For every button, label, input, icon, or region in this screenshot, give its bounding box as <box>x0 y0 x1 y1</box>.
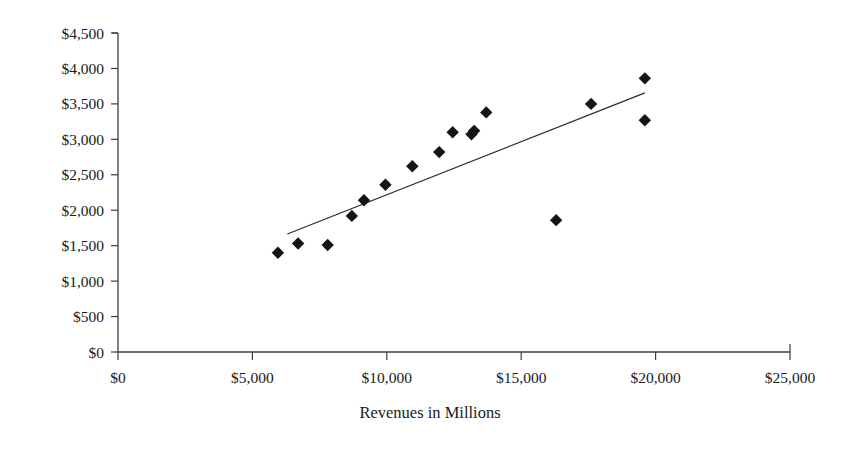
data-point <box>585 98 597 110</box>
trend-line <box>287 93 645 234</box>
data-point <box>346 210 358 222</box>
data-point <box>358 194 370 206</box>
x-axis-ticks <box>118 352 790 360</box>
x-axis-tick-labels: $0$5,000$10,000$15,000$20,000$25,000 <box>110 369 815 386</box>
x-tick-label: $15,000 <box>496 369 547 386</box>
x-tick-label: $0 <box>110 369 126 386</box>
x-tick-label: $25,000 <box>765 369 816 386</box>
data-point <box>433 146 445 158</box>
data-point <box>639 114 651 126</box>
trend-line-group <box>287 93 645 234</box>
y-tick-label: $3,000 <box>61 131 104 148</box>
data-point <box>272 247 284 259</box>
y-axis-ticks <box>111 33 118 352</box>
plot-area: $0$500$1,000$1,500$2,000$2,500$3,000$3,5… <box>0 0 855 451</box>
y-tick-label: $0 <box>89 344 105 361</box>
data-point <box>406 160 418 172</box>
data-point <box>550 214 562 226</box>
y-tick-label: $3,500 <box>61 95 104 112</box>
data-point <box>379 179 391 191</box>
y-tick-label: $1,500 <box>61 237 104 254</box>
data-point <box>639 72 651 84</box>
data-point <box>292 237 304 249</box>
x-axis-title: Revenues in Millions <box>359 403 500 422</box>
y-tick-label: $500 <box>73 308 104 325</box>
y-tick-label: $1,000 <box>61 273 104 290</box>
scatter-chart: $0$500$1,000$1,500$2,000$2,500$3,000$3,5… <box>0 0 855 451</box>
y-axis-tick-labels: $0$500$1,000$1,500$2,000$2,500$3,000$3,5… <box>61 25 104 361</box>
data-point <box>446 126 458 138</box>
y-tick-label: $2,000 <box>61 202 104 219</box>
x-tick-label: $10,000 <box>362 369 413 386</box>
data-point <box>321 239 333 251</box>
data-point <box>480 106 492 118</box>
x-tick-label: $20,000 <box>630 369 681 386</box>
y-tick-label: $4,500 <box>61 25 104 42</box>
x-tick-label: $5,000 <box>231 369 274 386</box>
y-tick-label: $4,000 <box>61 60 104 77</box>
y-tick-label: $2,500 <box>61 166 104 183</box>
